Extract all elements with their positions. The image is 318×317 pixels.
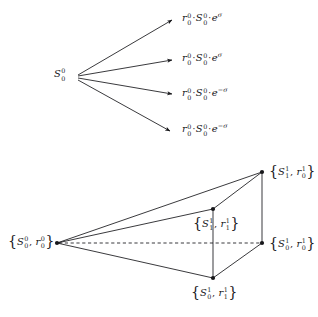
tree-root-label: S00	[54, 69, 66, 79]
pair-r-sub: 0	[41, 243, 45, 249]
term-r-base: r	[182, 52, 187, 63]
branch-label-1: r00·S00·eσ	[182, 12, 222, 23]
pair-r-base: r	[297, 166, 302, 177]
brace-close: }	[306, 163, 315, 179]
pair-s-sub: 0	[285, 245, 289, 251]
brace-close: }	[45, 233, 54, 249]
term-s-base: S	[196, 87, 203, 98]
vertex-label-middle: {S11, r11}	[193, 216, 239, 230]
term-e-exponent: −σ	[218, 86, 228, 94]
term-s-sub: 0	[203, 131, 207, 137]
brace-open: {	[191, 284, 200, 300]
term-r-base: r	[182, 87, 187, 98]
figure-canvas	[0, 0, 318, 317]
vertex-label-top-right: {S11, r10}	[269, 164, 315, 178]
vertex-label-bottom: {S10, r11}	[191, 285, 237, 299]
pair-r-base: r	[221, 218, 226, 229]
pair-r-base: r	[297, 238, 302, 249]
vertex-dot-right	[260, 241, 264, 245]
edge-right-bottom	[213, 243, 262, 278]
pair-s-base: S	[200, 287, 207, 298]
pair-s-base: S	[202, 218, 209, 229]
pair-r-base: r	[36, 236, 41, 247]
brace-open: {	[269, 235, 278, 251]
root-sub: 0	[61, 76, 65, 82]
vertex-label-left: {S00, r00}	[8, 234, 54, 248]
vertex-dot-top-right	[260, 170, 264, 174]
edge-middle-topright	[213, 172, 262, 209]
pair-s-base: S	[17, 236, 24, 247]
edge-left-bottom	[57, 243, 213, 278]
branch-arrow-3	[78, 78, 172, 94]
pair-r-base: r	[219, 287, 224, 298]
term-e-exponent: −σ	[218, 122, 228, 130]
brace-open: {	[8, 233, 17, 249]
pair-s-base: S	[278, 166, 285, 177]
brace-open: {	[269, 163, 278, 179]
pair-r-sub: 0	[302, 173, 306, 179]
term-s-sub: 0	[203, 20, 207, 26]
vertex-label-right: {S10, r10}	[269, 236, 315, 250]
term-r-base: r	[182, 123, 187, 134]
pair-s-base: S	[278, 238, 285, 249]
term-s-sub: 0	[203, 60, 207, 66]
term-s-base: S	[196, 12, 203, 23]
term-e-exponent: σ	[218, 51, 222, 59]
branch-arrow-4	[78, 80, 170, 131]
branch-label-3: r00·S00·e−σ	[182, 87, 228, 98]
term-s-base: S	[196, 123, 203, 134]
edge-left-middle	[57, 209, 213, 243]
lattice-figure: S00 r00·S00·eσ r00·S00·eσ r00·S00·e−σ r0…	[0, 0, 318, 317]
vertex-dot-middle	[211, 207, 215, 211]
term-e-exponent: σ	[218, 11, 222, 19]
term-r-base: r	[182, 12, 187, 23]
pair-s-sub: 1	[285, 173, 289, 179]
branch-label-2: r00·S00·eσ	[182, 52, 222, 63]
root-base: S	[54, 68, 61, 79]
term-s-base: S	[196, 52, 203, 63]
brace-open: {	[193, 215, 202, 231]
edge-left-topright	[57, 172, 262, 243]
pair-r-sub: 1	[224, 294, 228, 300]
pair-r-sub: 1	[226, 225, 230, 231]
term-r-sub: 0	[187, 60, 191, 66]
pair-s-sub: 1	[209, 225, 213, 231]
pair-s-sub: 0	[207, 294, 211, 300]
pair-s-sub: 0	[24, 243, 28, 249]
upper-tree-arrows	[78, 20, 172, 131]
term-s-sub: 0	[203, 95, 207, 101]
brace-close: }	[306, 235, 315, 251]
vertex-dot-bottom	[211, 276, 215, 280]
term-r-sub: 0	[187, 95, 191, 101]
root-sup: 0	[61, 68, 65, 74]
vertex-dot-left	[55, 241, 59, 245]
pair-r-sub: 0	[302, 245, 306, 251]
term-r-sub: 0	[187, 20, 191, 26]
branch-label-4: r00·S00·e−σ	[182, 123, 228, 134]
brace-close: }	[230, 215, 239, 231]
term-r-sub: 0	[187, 131, 191, 137]
branch-arrow-1	[78, 20, 172, 75]
brace-close: }	[228, 284, 237, 300]
branch-arrow-2	[78, 60, 172, 76]
